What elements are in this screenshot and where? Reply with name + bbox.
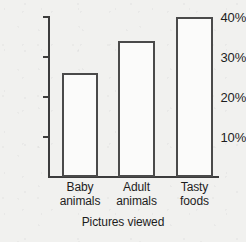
y-axis-tick [43,16,49,18]
category-label-line2: foods [163,194,227,208]
y-axis-tick [43,96,49,98]
bar [176,17,213,177]
bar-chart: 40%30%20%10% BabyanimalsAdultanimalsTast… [0,0,246,242]
category-label-line1: Tasty [163,180,227,194]
x-axis-category-label: Adultanimals [105,180,169,208]
x-axis-category-label: Babyanimals [48,180,112,208]
category-label-line2: animals [48,194,112,208]
y-axis-tick [43,56,49,58]
category-label-line1: Adult [105,180,169,194]
bar [118,41,155,177]
x-axis-title: Pictures viewed [0,215,246,229]
category-label-line2: animals [105,194,169,208]
bar [62,73,98,177]
category-label-line1: Baby [48,180,112,194]
x-axis-category-label: Tastyfoods [163,180,227,208]
y-axis-tick [43,136,49,138]
